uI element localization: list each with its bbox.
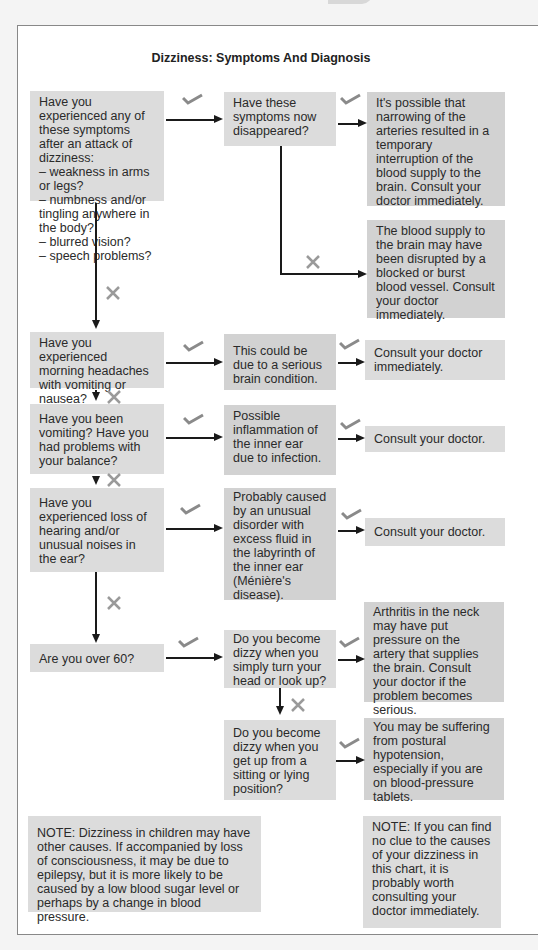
- arrow-down-icon: [92, 476, 100, 485]
- arrow-down-icon: [92, 320, 100, 329]
- arrow-right-icon: [214, 433, 223, 441]
- cross-icon: [106, 472, 122, 488]
- arrow-right-icon: [356, 655, 365, 663]
- cross-icon: [105, 285, 121, 301]
- arrow-right-icon: [356, 434, 365, 442]
- check-icon: [339, 636, 361, 648]
- check-icon: [340, 418, 362, 430]
- connector: [166, 437, 214, 439]
- result-consult-doctor-2: Consult your doctor.: [365, 518, 505, 546]
- note-consult: NOTE: If you can find no clue to the cau…: [363, 816, 501, 928]
- arrow-right-icon: [358, 119, 367, 127]
- arrow-right-icon: [214, 653, 223, 661]
- result-consult-immediately: Consult your doctor immediately.: [365, 340, 505, 380]
- connector: [166, 119, 214, 121]
- cross-icon: [290, 697, 306, 713]
- question-symptoms-disappeared: Have these symptoms now disappeared?: [224, 92, 336, 146]
- chart-title: Dizziness: Symptoms And Diagnosis: [0, 51, 522, 65]
- check-icon: [182, 93, 204, 105]
- arrow-down-icon: [92, 392, 100, 401]
- question-turn-head: Do you become dizzy when you simply turn…: [224, 630, 336, 688]
- cross-icon: [305, 254, 321, 270]
- result-artery-narrowing: It's possible that narrowing of the arte…: [367, 92, 505, 206]
- arrow-right-icon: [356, 526, 365, 534]
- connector: [166, 362, 214, 364]
- check-icon: [178, 636, 200, 648]
- cross-icon: [106, 389, 122, 405]
- question-over-60: Are you over 60?: [30, 644, 164, 672]
- question-vomiting-balance: Have you been vomiting? Have you had pro…: [30, 404, 164, 474]
- arrow-right-icon: [214, 115, 223, 123]
- result-blocked-vessel: The blood supply to the brain may have b…: [367, 220, 505, 318]
- connector: [338, 438, 356, 440]
- question-morning-headaches: Have you experienced morning headaches w…: [30, 332, 164, 388]
- connector: [95, 572, 97, 636]
- result-consult-doctor: Consult your doctor.: [365, 426, 505, 452]
- connector: [338, 659, 356, 661]
- arrow-right-icon: [356, 358, 365, 366]
- arrow-right-icon: [214, 524, 223, 532]
- check-icon: [180, 503, 202, 515]
- arrow-down-icon: [276, 706, 284, 715]
- arrow-right-icon: [358, 270, 367, 278]
- diagnosis-brain-condition: This could be due to a serious brain con…: [224, 334, 336, 390]
- diagnosis-menieres-disease: Probably caused by an unusual disorder w…: [224, 488, 336, 600]
- question-get-up: Do you become dizzy when you get up from…: [224, 720, 336, 800]
- cross-icon: [106, 595, 122, 611]
- arrow-right-icon: [214, 358, 223, 366]
- result-neck-arthritis: Arthritis in the neck may have put press…: [364, 602, 504, 702]
- connector: [95, 203, 97, 323]
- check-icon: [339, 737, 361, 749]
- check-icon: [340, 93, 362, 105]
- connector: [166, 528, 214, 530]
- connector: [338, 530, 356, 532]
- connector: [280, 273, 358, 275]
- question-symptoms-after-attack: Have you experienced any of these sympto…: [30, 91, 164, 201]
- check-icon: [183, 340, 205, 352]
- arrow-down-icon: [92, 634, 100, 643]
- connector: [166, 657, 214, 659]
- question-hearing-loss: Have you experienced loss of hearing and…: [30, 488, 164, 572]
- connector: [280, 146, 282, 274]
- diagnosis-inner-ear-inflammation: Possible inflammation of the inner ear d…: [224, 405, 336, 475]
- connector: [338, 123, 358, 125]
- connector: [336, 760, 356, 762]
- check-icon: [339, 338, 361, 350]
- connector: [338, 362, 356, 364]
- check-icon: [183, 413, 205, 425]
- arrow-right-icon: [356, 756, 365, 764]
- result-postural-hypotension: You may be suffering from postural hypot…: [364, 718, 504, 800]
- page-tab-decoration: [328, 0, 372, 4]
- check-icon: [341, 508, 363, 520]
- note-children: NOTE: Dizziness in children may have oth…: [28, 816, 261, 912]
- connector: [279, 688, 281, 708]
